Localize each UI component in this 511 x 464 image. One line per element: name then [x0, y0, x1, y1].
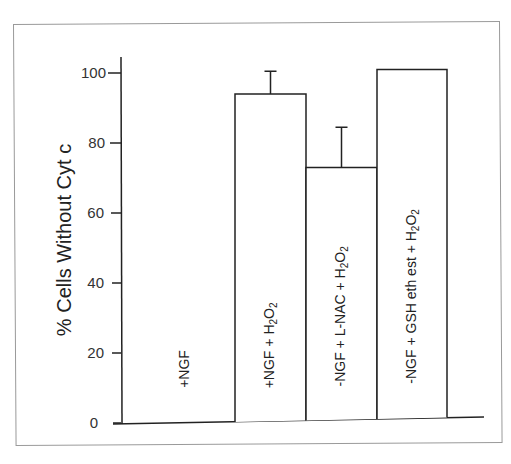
y-axis [121, 57, 122, 424]
y-tick-60: 60 [64, 204, 104, 221]
bar-label: +NGF [176, 350, 192, 388]
bar-label: -NGF + GSH eth est + H2O2 [403, 209, 422, 384]
y-tick-40: 40 [64, 274, 104, 291]
bar-label: +NGF + H2O2 [261, 302, 280, 388]
y-tick-20: 20 [64, 344, 104, 361]
y-ticks [108, 73, 121, 423]
y-axis-label: % Cells Without Cyt c [53, 144, 76, 336]
error-bar [336, 127, 348, 167]
bar-label: -NGF + L-NAC + H2O2 [332, 246, 351, 386]
y-tick-100: 100 [66, 64, 106, 81]
y-tick-80: 80 [65, 134, 105, 151]
error-bar [265, 71, 277, 94]
y-tick-0: 0 [58, 414, 98, 431]
